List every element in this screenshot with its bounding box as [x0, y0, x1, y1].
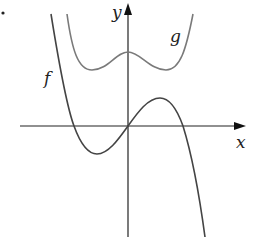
curve-g-label: g [170, 26, 181, 46]
curve-f-label: f [42, 68, 53, 88]
x-axis-label: x [236, 132, 246, 152]
y-axis-label: y [111, 2, 122, 22]
function-graph: y x f g [0, 0, 255, 237]
y-axis-arrow-icon [124, 3, 132, 15]
bullet-dot [1, 11, 4, 14]
x-axis-arrow-icon [234, 122, 246, 130]
